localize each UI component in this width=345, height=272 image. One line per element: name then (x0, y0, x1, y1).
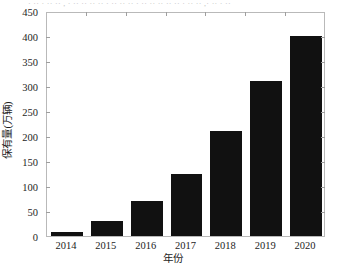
y-axis-tick-label: 0 (33, 232, 38, 243)
x-axis-title: 年份 (0, 253, 345, 265)
y-axis-tick-mark (46, 137, 50, 138)
y-axis-tick-label: 50 (28, 207, 39, 218)
y-axis-tick-mark (46, 87, 50, 88)
y-axis-tick-mark-right (321, 137, 325, 138)
bar (290, 36, 322, 236)
x-axis-tick-mark (86, 12, 87, 16)
x-axis-tick-label: 2015 (95, 240, 116, 252)
y-axis-tick-mark (46, 62, 50, 63)
x-axis-tick-label: 2017 (175, 240, 196, 252)
bar (131, 201, 163, 236)
y-axis-tick-mark-right (321, 62, 325, 63)
y-axis-tick-label: 200 (22, 132, 38, 143)
y-axis-tick-label: 150 (22, 157, 38, 168)
y-axis-tick-mark (46, 187, 50, 188)
y-axis-title: 保有量(万辆) (2, 80, 14, 180)
bar (171, 174, 203, 237)
y-axis-tick-mark-right (321, 162, 325, 163)
y-axis-tick-label: 450 (22, 7, 38, 18)
x-axis-tick-mark (126, 12, 127, 16)
x-axis-tick-label: 2020 (295, 240, 316, 252)
y-axis-tick-mark (46, 162, 50, 163)
bar (250, 81, 282, 236)
y-axis-tick-mark-right (321, 87, 325, 88)
y-axis-tick-mark-right (321, 37, 325, 38)
x-axis-tick-label: 2018 (215, 240, 236, 252)
x-axis-tick-label: 2016 (135, 240, 156, 252)
x-axis-tick-label: 2019 (255, 240, 276, 252)
y-axis-tick-mark (46, 37, 50, 38)
x-axis-tick-mark (245, 12, 246, 16)
y-axis-tick-label: 400 (22, 32, 38, 43)
x-axis-tick-label: 2014 (55, 240, 76, 252)
y-axis-tick-mark (46, 112, 50, 113)
y-axis-tick-label: 300 (22, 82, 38, 93)
y-axis-tick-label: 100 (22, 182, 38, 193)
y-axis-tick-mark-right (321, 212, 325, 213)
bar-chart-figure: 050100150200250300350400450 保有量(万辆) 2014… (0, 0, 345, 272)
y-axis-tick-mark (46, 212, 50, 213)
x-axis-tick-mark (285, 12, 286, 16)
plot-area (46, 12, 325, 237)
y-axis-tick-label: 350 (22, 57, 38, 68)
bar (51, 232, 83, 236)
y-axis-tick-mark-right (321, 187, 325, 188)
bar (91, 221, 123, 236)
bars-layer (47, 13, 324, 236)
bar (210, 131, 242, 236)
x-axis-tick-mark (166, 12, 167, 16)
x-axis-tick-mark (205, 12, 206, 16)
y-axis-tick-label: 250 (22, 107, 38, 118)
y-axis-tick-mark-right (321, 112, 325, 113)
